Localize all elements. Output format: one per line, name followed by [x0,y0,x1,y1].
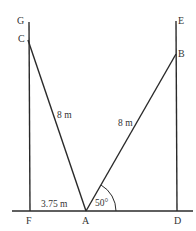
ladder-ca-line [28,40,86,211]
ladder-diagram: G C F A D B E 8 m 8 m 3.75 m 50° [0,0,196,231]
point-label-d: D [174,215,181,226]
ladder-ab-line [86,54,176,211]
left-wall-line [29,22,30,211]
point-label-a: A [82,215,90,226]
point-label-f: F [26,215,32,226]
point-label-g: G [17,15,24,26]
right-wall-line [176,21,177,211]
angle-label-bad: 50° [95,198,109,208]
length-label-fa: 3.75 m [41,199,68,209]
length-label-ca: 8 m [57,110,72,120]
length-label-ab: 8 m [118,118,133,128]
point-label-c: C [18,33,25,44]
point-label-b: B [178,48,185,59]
point-label-e: E [178,15,184,26]
